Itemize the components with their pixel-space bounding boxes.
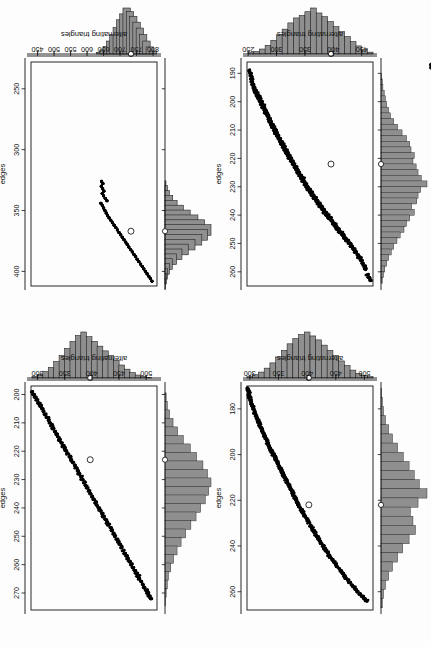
- svg-text:300: 300: [244, 369, 256, 378]
- svg-text:450: 450: [330, 369, 342, 378]
- panel-grid: 190200210220230240250260edges25030035040…: [0, 0, 431, 647]
- panel-bottom-left: 250300350400edges45050055060065070075080…: [1, 0, 216, 323]
- svg-text:700: 700: [115, 45, 127, 54]
- svg-text:260: 260: [228, 585, 237, 597]
- svg-text:400: 400: [13, 265, 22, 277]
- panel-bottom-right: 200210220230240250260270edges30035040045…: [1, 324, 216, 647]
- svg-text:220: 220: [228, 152, 237, 164]
- svg-text:220: 220: [228, 494, 237, 506]
- svg-text:190: 190: [228, 67, 237, 79]
- svg-text:alternating triangles: alternating triangles: [277, 30, 343, 39]
- svg-text:500: 500: [141, 369, 153, 378]
- svg-text:650: 650: [98, 45, 110, 54]
- svg-text:210: 210: [228, 124, 237, 136]
- svg-text:300: 300: [13, 144, 22, 156]
- svg-text:600: 600: [82, 45, 94, 54]
- svg-text:350: 350: [59, 369, 71, 378]
- panel-top-left: 190200210220230240250260edges25030035040…: [216, 0, 431, 323]
- svg-text:500: 500: [49, 45, 61, 54]
- svg-text:300: 300: [271, 45, 283, 54]
- svg-text:edges: edges: [216, 487, 223, 508]
- svg-text:250: 250: [242, 45, 254, 54]
- svg-text:400: 400: [301, 369, 313, 378]
- svg-text:450: 450: [356, 45, 368, 54]
- svg-text:230: 230: [228, 181, 237, 193]
- svg-text:240: 240: [13, 501, 22, 513]
- svg-text:200: 200: [228, 96, 237, 108]
- svg-text:500: 500: [358, 369, 370, 378]
- svg-text:240: 240: [228, 209, 237, 221]
- svg-text:300: 300: [32, 369, 44, 378]
- panel-top-right: 180200220240260edges300350400450500alter…: [216, 324, 431, 647]
- svg-text:250: 250: [13, 83, 22, 95]
- svg-text:alternating triangles: alternating triangles: [61, 30, 127, 39]
- svg-text:450: 450: [113, 369, 125, 378]
- svg-text:240: 240: [228, 540, 237, 552]
- svg-text:350: 350: [13, 205, 22, 217]
- svg-text:260: 260: [13, 558, 22, 570]
- svg-text:250: 250: [13, 530, 22, 542]
- svg-text:edges: edges: [1, 163, 8, 184]
- svg-text:800: 800: [148, 45, 160, 54]
- svg-text:210: 210: [13, 416, 22, 428]
- svg-text:750: 750: [131, 45, 143, 54]
- svg-text:edges: edges: [1, 487, 8, 508]
- svg-text:260: 260: [228, 266, 237, 278]
- svg-text:230: 230: [13, 473, 22, 485]
- svg-text:alternating triangles: alternating triangles: [277, 354, 343, 363]
- svg-text:250: 250: [228, 237, 237, 249]
- svg-text:200: 200: [228, 448, 237, 460]
- svg-text:alternating triangles: alternating triangles: [61, 354, 127, 363]
- svg-text:400: 400: [327, 45, 339, 54]
- svg-text:220: 220: [13, 445, 22, 457]
- svg-text:180: 180: [228, 402, 237, 414]
- svg-text:200: 200: [13, 388, 22, 400]
- svg-text:550: 550: [65, 45, 77, 54]
- rotated-figure-container: 190200210220230240250260edges25030035040…: [0, 0, 431, 647]
- svg-text:350: 350: [299, 45, 311, 54]
- svg-text:edges: edges: [216, 163, 223, 184]
- svg-text:350: 350: [273, 369, 285, 378]
- svg-text:400: 400: [86, 369, 98, 378]
- svg-text:270: 270: [13, 586, 22, 598]
- svg-text:450: 450: [32, 45, 44, 54]
